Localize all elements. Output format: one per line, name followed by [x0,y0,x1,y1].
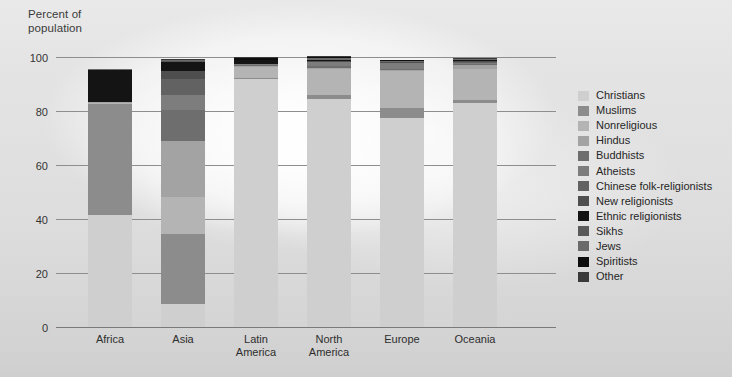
legend-item-label: New religionists [596,196,673,207]
chart-legend: ChristiansMuslimsNonreligiousHindusBuddh… [578,88,728,284]
bar-column[interactable] [453,58,497,327]
legend-item[interactable]: New religionists [578,194,728,209]
y-axis-tick-label: 20 [36,268,48,280]
bar-segment[interactable] [161,110,205,141]
legend-item[interactable]: Ethnic religionists [578,209,728,224]
legend-swatch-icon [578,121,589,131]
legend-item-label: Chinese folk-religionists [596,181,712,192]
bar-segment[interactable] [307,69,351,95]
x-axis-tick-label: Europe [363,333,441,346]
legend-item-label: Other [596,271,624,282]
x-axis-tick-label: Oceania [436,333,514,346]
legend-item-label: Hindus [596,135,630,146]
bar-segment[interactable] [88,104,132,215]
bar-segment[interactable] [161,79,205,95]
bar-segment[interactable] [234,79,278,327]
bar-column[interactable] [88,69,132,327]
bar-segment[interactable] [380,108,424,117]
legend-swatch-icon [578,211,589,221]
bar-segment[interactable] [234,67,278,78]
legend-item-label: Nonreligious [596,120,657,131]
plot-area: AfricaAsiaLatinAmericaNorthAmericaEurope… [56,57,556,327]
legend-item[interactable]: Atheists [578,163,728,178]
bar-segment[interactable] [161,197,205,233]
legend-swatch-icon [578,91,589,101]
x-axis-tick-label-line: Asia [144,333,222,346]
x-axis-tick-label-line: Africa [71,333,149,346]
bar-segment[interactable] [161,141,205,198]
legend-swatch-icon [578,257,589,267]
legend-item[interactable]: Christians [578,88,728,103]
x-axis-tick-label-line: North [290,333,368,346]
axis-baseline [56,327,556,328]
bar-segment[interactable] [380,118,424,327]
legend-item-label: Spiritists [596,256,638,267]
legend-item[interactable]: Hindus [578,133,728,148]
legend-item-label: Jews [596,241,621,252]
legend-item-label: Buddhists [596,150,644,161]
stacked-bar-chart: Percent of population 020406080100 Afric… [0,0,732,377]
bar-segment[interactable] [88,215,132,327]
y-axis-tick-label: 80 [36,106,48,118]
legend-item[interactable]: Muslims [578,103,728,118]
bar-column[interactable] [307,56,351,327]
x-axis-tick-label: NorthAmerica [290,333,368,359]
legend-item[interactable]: Other [578,269,728,284]
legend-item[interactable]: Jews [578,239,728,254]
legend-item-label: Christians [596,90,645,101]
bar-segment[interactable] [161,62,205,70]
bar-segment[interactable] [88,70,132,102]
bar-segment[interactable] [161,71,205,79]
y-axis-title-line1: Percent of [28,8,82,22]
y-axis-tick-label: 60 [36,160,48,172]
y-axis-tick-label: 100 [30,52,48,64]
bar-segment[interactable] [380,71,424,109]
x-axis-tick-label: LatinAmerica [217,333,295,359]
bar-segment[interactable] [161,234,205,304]
y-axis-tick-label: 0 [42,322,48,334]
legend-item[interactable]: Nonreligious [578,118,728,133]
x-axis-tick-label-line: Oceania [436,333,514,346]
bar-segment[interactable] [307,99,351,327]
x-axis-tick-label-line: America [217,346,295,359]
bar-column[interactable] [161,59,205,327]
bar-segment[interactable] [453,103,497,327]
legend-item[interactable]: Buddhists [578,148,728,163]
y-axis-tick-label: 40 [36,214,48,226]
x-axis-tick-label-line: Latin [217,333,295,346]
x-axis-tick-label-line: Europe [363,333,441,346]
legend-swatch-icon [578,241,589,251]
y-axis-title-line2: population [28,22,82,36]
legend-swatch-icon [578,181,589,191]
legend-swatch-icon [578,196,589,206]
legend-swatch-icon [578,136,589,146]
bar-segment[interactable] [161,95,205,110]
legend-item-label: Ethnic religionists [596,211,682,222]
y-axis-title: Percent of population [28,8,82,35]
legend-item[interactable]: Spiritists [578,254,728,269]
y-axis-tick-labels: 020406080100 [0,57,52,328]
legend-item-label: Muslims [596,105,636,116]
bar-segment[interactable] [453,69,497,100]
x-axis-tick-label: Africa [71,333,149,346]
x-axis-tick-label: Asia [144,333,222,346]
legend-item[interactable]: Sikhs [578,224,728,239]
legend-swatch-icon [578,151,589,161]
bar-segment[interactable] [161,304,205,327]
bar-column[interactable] [380,60,424,327]
legend-item[interactable]: Chinese folk-religionists [578,179,728,194]
legend-swatch-icon [578,166,589,176]
x-axis-tick-label-line: America [290,346,368,359]
legend-swatch-icon [578,272,589,282]
legend-swatch-icon [578,106,589,116]
bar-column[interactable] [234,57,278,327]
legend-swatch-icon [578,226,589,236]
legend-item-label: Sikhs [596,226,623,237]
legend-item-label: Atheists [596,166,635,177]
